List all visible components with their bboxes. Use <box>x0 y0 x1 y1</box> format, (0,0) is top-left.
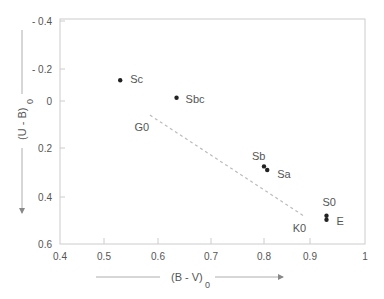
data-point-label: E <box>337 215 344 227</box>
y-tick-label: 0 <box>46 96 52 107</box>
x-tick-label: 1 <box>362 251 368 262</box>
data-point-label: Sbc <box>186 93 205 105</box>
y-axis-label-subscript: 0 <box>25 99 35 104</box>
data-point-label: Sa <box>277 168 291 180</box>
data-point-marker <box>324 218 328 222</box>
x-axis-title: (B - V) 0 <box>96 271 283 290</box>
x-tick-label: 0.8 <box>257 251 271 262</box>
data-point-marker <box>118 78 122 82</box>
x-axis-label: (B - V) <box>171 271 203 283</box>
data-point-label: Sc <box>130 73 143 85</box>
x-tick-label: 0.9 <box>303 251 317 262</box>
plot-frame <box>60 19 365 244</box>
y-tick-label: 0.6 <box>38 239 52 250</box>
x-tick-label: 0.4 <box>53 251 67 262</box>
y-tick-label: - 0.4 <box>32 16 52 27</box>
line-endpoint-label: G0 <box>135 121 150 133</box>
data-point-marker <box>262 164 266 168</box>
data-point-label: S0 <box>323 196 336 208</box>
y-tick-label: 0.4 <box>38 192 52 203</box>
x-tick-label: 0.7 <box>204 251 218 262</box>
x-tick-label: 0.5 <box>97 251 111 262</box>
data-point-label: Sb <box>252 150 265 162</box>
y-tick-label: 0.2 <box>38 143 52 154</box>
y-axis-title: (U - B) 0 <box>16 30 35 213</box>
data-point-marker <box>265 168 269 172</box>
dashed-line <box>150 115 306 217</box>
data-points: ScSbcSbSaS0E <box>118 73 344 227</box>
data-point-marker <box>174 96 178 100</box>
y-tick-label: - 0.2 <box>32 64 52 75</box>
x-axis-label-subscript: 0 <box>205 280 210 290</box>
x-axis-ticks: 0.40.50.60.70.80.91 <box>53 238 368 262</box>
color-color-diagram: 0.40.50.60.70.80.91 - 0.4- 0.200.20.40.6… <box>0 0 384 299</box>
data-point-marker <box>324 214 328 218</box>
y-axis-label: (U - B) <box>16 108 28 140</box>
x-tick-label: 0.6 <box>151 251 165 262</box>
line-endpoint-label: K0 <box>293 222 306 234</box>
